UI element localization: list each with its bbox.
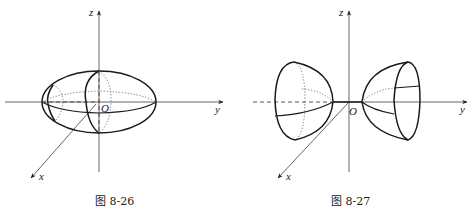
x-axis	[31, 104, 96, 178]
left-rim-back	[294, 62, 305, 140]
y-label: y	[214, 103, 220, 115]
right-profile	[362, 62, 408, 140]
right-sheet	[362, 62, 420, 140]
x-axis	[278, 102, 349, 178]
left-section-front	[48, 85, 55, 121]
right-rim-diameter	[394, 86, 420, 88]
left-profile	[294, 62, 333, 140]
right-back-meridian	[362, 88, 394, 102]
right-rim	[394, 62, 420, 140]
left-front-meridian	[275, 102, 333, 116]
x-label: x	[38, 170, 44, 182]
z-label: z	[338, 6, 344, 18]
left-rim-front	[275, 62, 295, 140]
caption-fig-8-26: 图 8-26	[95, 192, 134, 208]
left-back-meridian	[302, 89, 333, 102]
figure-8-27: z y x O	[253, 6, 467, 182]
x-label: x	[285, 170, 291, 182]
figure-8-26: z y x O	[5, 6, 223, 182]
right-front-meridian	[362, 102, 394, 114]
diagram-canvas: z y x O z y x O	[0, 0, 473, 209]
z-label: z	[88, 6, 94, 18]
origin-label: O	[349, 105, 357, 117]
left-section-back	[53, 85, 63, 121]
caption-fig-8-27: 图 8-27	[331, 192, 370, 208]
y-label: y	[459, 103, 465, 115]
origin-label: O	[101, 102, 109, 114]
